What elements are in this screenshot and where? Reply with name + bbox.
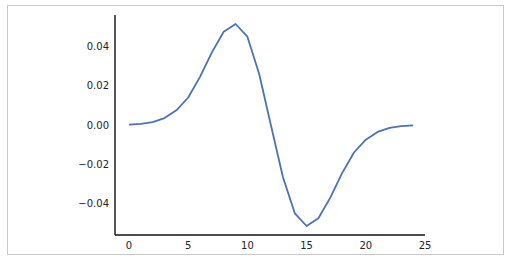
x-tick-label: 20 — [359, 240, 372, 251]
data-line — [129, 24, 413, 226]
x-tick-label: 0 — [126, 240, 132, 251]
plot-lines — [129, 24, 413, 226]
y-tick-label: 0.00 — [87, 120, 109, 131]
y-tick-label: −0.04 — [78, 198, 109, 209]
x-tick-label: 10 — [241, 240, 254, 251]
y-tick-label: 0.02 — [87, 80, 109, 91]
line-chart: 0.040.020.00−0.02−0.04 0510152025 — [0, 0, 511, 265]
x-axis-ticks: 0510152025 — [126, 240, 432, 251]
y-tick-label: −0.02 — [78, 159, 109, 170]
x-tick-label: 25 — [419, 240, 432, 251]
x-tick-label: 5 — [185, 240, 191, 251]
y-axis-ticks: 0.040.020.00−0.02−0.04 — [78, 41, 109, 209]
x-tick-label: 15 — [300, 240, 313, 251]
y-tick-label: 0.04 — [87, 41, 109, 52]
